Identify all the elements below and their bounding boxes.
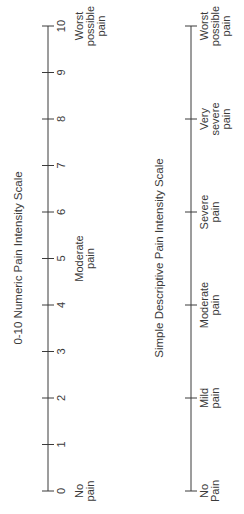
numeric-tick-label: 2	[55, 395, 67, 401]
descriptive-pain-scale: NoPainMildpainModeratepainSeverepainVery…	[153, 6, 232, 502]
numeric-anchor-label: Worstpossiblepain	[73, 6, 107, 46]
numeric-tick-label: 7	[55, 162, 67, 168]
numeric-scale-ticks: 012345678910	[42, 20, 67, 494]
numeric-pain-scale: 012345678910 NopainModeratepainWorstposs…	[12, 6, 107, 502]
numeric-tick-label: 6	[55, 209, 67, 215]
numeric-tick-label: 9	[55, 69, 67, 75]
numeric-scale-title: 0-10 Numeric Pain Intensity Scale	[12, 171, 24, 344]
numeric-tick-label: 1	[55, 441, 67, 447]
numeric-tick-label: 3	[55, 348, 67, 354]
pain-scales-figure: 012345678910 NopainModeratepainWorstposs…	[0, 0, 244, 514]
numeric-tick-label: 8	[55, 116, 67, 122]
figure-caption-cropped	[233, 0, 244, 514]
descriptive-point-label: NoPain	[198, 480, 221, 502]
descriptive-point-label: Moderatepain	[198, 282, 221, 328]
numeric-tick-label: 5	[55, 255, 67, 261]
numeric-scale-anchor-labels: NopainModeratepainWorstpossiblepain	[73, 6, 107, 502]
descriptive-scale-points: NoPainMildpainModeratepainSeverepainVery…	[185, 6, 232, 502]
numeric-anchor-label: Nopain	[73, 481, 96, 502]
descriptive-point-label: Mildpain	[198, 388, 221, 409]
descriptive-scale-title: Simple Descriptive Pain Intensity Scale	[153, 158, 165, 357]
descriptive-point-label: Severepain	[198, 195, 221, 230]
descriptive-point-label: Worstpossiblepain	[198, 6, 232, 46]
numeric-tick-label: 10	[55, 20, 67, 32]
numeric-tick-label: 0	[55, 488, 67, 494]
numeric-anchor-label: Moderatepain	[73, 235, 96, 281]
descriptive-point-label: Veryseverepain	[198, 102, 232, 135]
numeric-tick-label: 4	[55, 302, 67, 308]
